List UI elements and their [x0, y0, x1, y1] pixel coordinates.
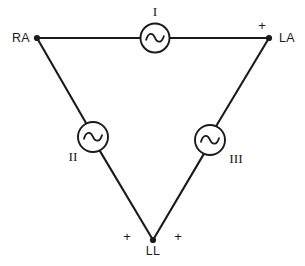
electrode-label-la: LA [279, 31, 295, 45]
diagram-canvas: RA LA LL I II III + + + [0, 0, 305, 266]
ac-source-lead2 [78, 122, 108, 152]
node-dot-la [266, 35, 272, 41]
einthoven-triangle-diagram: RA LA LL I II III + + + [0, 0, 305, 266]
ac-source-lead3 [195, 125, 225, 155]
wire-la-to-lead3 [216, 38, 269, 126]
wire-lead3-to-ll [153, 154, 204, 240]
electrode-label-ra: RA [12, 31, 30, 45]
polarity-plus-ll-left: + [123, 229, 131, 244]
wire-lead2-to-ll [100, 151, 153, 240]
node-dot-ll [150, 237, 156, 243]
electrode-label-ll: LL [146, 244, 160, 258]
node-dot-ra [34, 35, 40, 41]
polarity-plus-ll-right: + [174, 229, 182, 244]
lead-label-i: I [153, 4, 158, 19]
lead-label-ii: II [69, 149, 78, 164]
lead-label-iii: III [229, 151, 243, 166]
wire-ra-to-lead2 [37, 38, 86, 123]
ac-source-lead1 [141, 24, 170, 53]
polarity-plus-la: + [258, 18, 266, 33]
